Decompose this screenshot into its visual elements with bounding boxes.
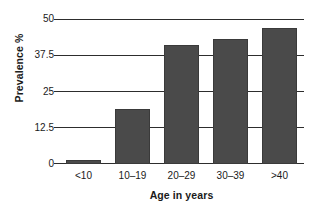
bar-series xyxy=(59,19,304,164)
bar-20-29 xyxy=(164,45,199,164)
y-axis-tick-labels: 50 37.5 25 12.5 0 xyxy=(8,0,54,212)
plot-area xyxy=(59,19,304,164)
y-tick-label-37-5: 37.5 xyxy=(12,50,54,60)
bar-lt-10 xyxy=(66,160,101,164)
bar-gt-40 xyxy=(262,28,297,164)
bar-30-39 xyxy=(213,39,248,164)
x-axis-tick-labels: <10 10–19 20–29 30–39 >40 xyxy=(59,170,304,184)
y-tick-label-50: 50 xyxy=(12,14,54,24)
y-tick-label-12-5: 12.5 xyxy=(12,123,54,133)
bar-chart: Prevalence % 50 37.5 25 12.5 0 xyxy=(0,0,319,212)
x-tick-label-30-39: 30–39 xyxy=(206,170,255,181)
x-axis-title: Age in years xyxy=(59,189,304,201)
x-tick-label-gt-40: >40 xyxy=(255,170,304,181)
y-tick-label-25: 25 xyxy=(12,87,54,97)
bar-10-19 xyxy=(115,109,150,164)
x-tick-label-lt-10: <10 xyxy=(59,170,108,181)
x-tick-label-20-29: 20–29 xyxy=(157,170,206,181)
x-tick-label-10-19: 10–19 xyxy=(108,170,157,181)
y-tick-label-0: 0 xyxy=(12,159,54,169)
